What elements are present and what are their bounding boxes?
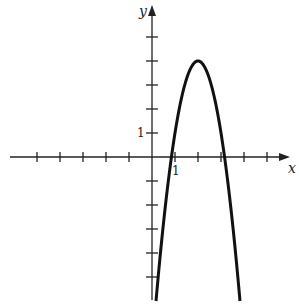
x-tick-label-1: 1 [172, 164, 180, 178]
graph: x y 1 1 [0, 0, 299, 307]
y-tick-label-1: 1 [137, 126, 145, 140]
x-axis-label: x [288, 160, 296, 176]
y-axis-arrow-icon [148, 5, 156, 16]
parabola-curve [156, 61, 240, 301]
axes [10, 5, 290, 300]
y-axis-label: y [138, 3, 148, 19]
